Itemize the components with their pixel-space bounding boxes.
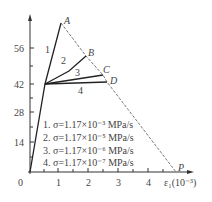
y-axis-arrow-icon [28, 14, 32, 21]
legend-item-3: 3. σ=1.17×10⁻⁶ MPa/s [43, 145, 134, 156]
y-ticks [30, 48, 34, 157]
x-tick-3: 3 [116, 177, 121, 188]
legend: 1. σ=1.17×10⁻³ MPa/s 2. σ=1.17×10⁻⁵ MPa/… [43, 119, 134, 168]
legend-item-2: 2. σ=1.17×10⁻⁵ MPa/s [43, 132, 134, 143]
point-A-label: A [63, 15, 71, 26]
origin-label: 0 [18, 177, 23, 188]
point-D-label: D [109, 75, 118, 86]
stress-strain-chart: 56 42 28 14 0 1 2 3 4 ε₁(10⁻³) A B C D P… [0, 0, 212, 202]
curve-3-label: 3 [75, 67, 80, 78]
legend-item-4: 4. σ=1.17×10⁻⁷ MPa/s [43, 157, 134, 168]
curve-4-label: 4 [78, 85, 83, 96]
x-tick-1: 1 [56, 177, 61, 188]
y-tick-28: 28 [14, 107, 24, 118]
y-tick-56: 56 [14, 43, 24, 54]
point-C-label: C [103, 64, 110, 75]
y-tick-14: 14 [14, 137, 24, 148]
x-axis-arrow-icon [187, 170, 194, 174]
curve-1-label: 1 [45, 44, 50, 55]
curve-2-label: 2 [61, 55, 66, 66]
x-axis-label: ε₁(10⁻³) [164, 177, 196, 189]
y-tick-42: 42 [14, 79, 24, 90]
x-ticks [44, 168, 163, 172]
x-tick-2: 2 [86, 177, 91, 188]
x-tick-4: 4 [146, 177, 151, 188]
legend-item-1: 1. σ=1.17×10⁻³ MPa/s [43, 119, 133, 130]
point-P-label: P [177, 162, 184, 173]
point-B-label: B [88, 47, 94, 58]
